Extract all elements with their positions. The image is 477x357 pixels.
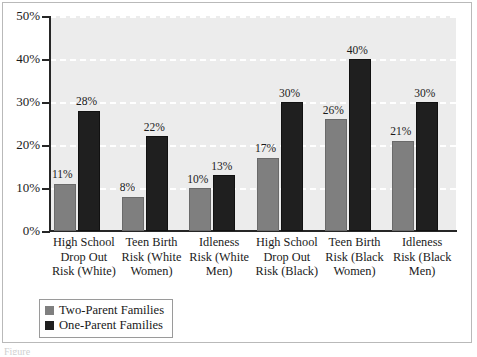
bar[interactable] — [257, 158, 279, 231]
bar-value-label: 11% — [52, 169, 73, 181]
bar-value-label: 10% — [187, 174, 208, 186]
y-axis-tick — [42, 188, 50, 190]
y-axis-tick-label: 30% — [0, 95, 40, 108]
bar-value-label: 13% — [211, 161, 232, 173]
legend-label-two-parent: Two-Parent Families — [59, 304, 164, 317]
bar-group: 26%40% — [321, 16, 389, 231]
bar[interactable] — [213, 175, 235, 231]
y-axis-tick-label: 10% — [0, 181, 40, 194]
bar[interactable] — [416, 102, 438, 231]
legend-swatch-one-parent — [45, 321, 54, 330]
bar-group: 21%30% — [388, 16, 456, 231]
bar-group: 11%28% — [50, 16, 118, 231]
legend-item: One-Parent Families — [45, 318, 164, 333]
legend-swatch-two-parent — [45, 306, 54, 315]
bar-series-container: 11%28%8%22%10%13%17%30%26%40%21%30% — [50, 16, 456, 231]
y-axis-tick — [42, 59, 50, 61]
x-axis-category-label: Idleness Risk (Black Men) — [382, 235, 462, 279]
y-axis-tick-label: 20% — [0, 138, 40, 151]
bar[interactable] — [78, 111, 100, 231]
legend-label-one-parent: One-Parent Families — [59, 319, 163, 332]
bar-value-label: 30% — [279, 88, 300, 100]
y-axis-tick — [42, 16, 50, 18]
y-axis-tick-label: 40% — [0, 52, 40, 65]
bar-value-label: 30% — [414, 88, 435, 100]
bar[interactable] — [54, 184, 76, 231]
y-axis-tick-label: 0% — [0, 224, 40, 237]
x-axis-category-labels: High School Drop Out Risk (White)Teen Bi… — [50, 235, 456, 293]
bar[interactable] — [146, 136, 168, 231]
bar[interactable] — [325, 119, 347, 231]
chart-legend: Two-Parent Families One-Parent Families — [39, 299, 173, 338]
y-axis-tick — [42, 231, 50, 233]
bar[interactable] — [392, 141, 414, 231]
bar[interactable] — [281, 102, 303, 231]
chart-frame: 0%10%20%30%40%50% 11%28%8%22%10%13%17%30… — [2, 2, 472, 343]
bar-value-label: 22% — [144, 122, 165, 134]
y-axis-tick — [42, 145, 50, 147]
bar[interactable] — [349, 59, 371, 231]
y-axis-labels: 0%10%20%30%40%50% — [3, 16, 40, 231]
y-axis-tick — [42, 102, 50, 104]
legend-item: Two-Parent Families — [45, 303, 164, 318]
bar[interactable] — [122, 197, 144, 231]
bar-value-label: 8% — [120, 182, 135, 194]
y-axis-tick-label: 50% — [0, 9, 40, 22]
bar-value-label: 17% — [255, 143, 276, 155]
figure-caption: Figure — [4, 347, 184, 355]
bar-value-label: 40% — [347, 45, 368, 57]
bar-group: 8%22% — [118, 16, 186, 231]
bar-group: 17%30% — [253, 16, 321, 231]
bar-group: 10%13% — [185, 16, 253, 231]
bar-value-label: 26% — [323, 105, 344, 117]
bar-value-label: 28% — [76, 96, 97, 108]
bar-value-label: 21% — [390, 126, 411, 138]
bar[interactable] — [189, 188, 211, 231]
